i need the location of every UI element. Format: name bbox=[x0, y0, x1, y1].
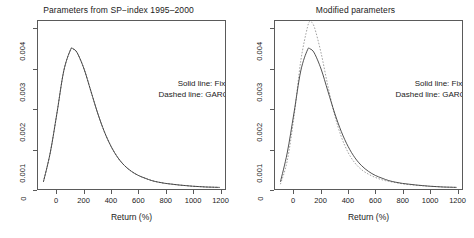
x-tick-mark bbox=[56, 190, 57, 194]
y-tick-label: 0.003 bbox=[19, 82, 28, 101]
x-tick-label: 1000 bbox=[185, 196, 202, 205]
panel-modified: Modified parameters 00.0010.0020.0030.00… bbox=[237, 0, 474, 238]
x-tick-mark bbox=[293, 190, 294, 194]
x-axis-title-left: Return (%) bbox=[37, 212, 226, 222]
y-tick-label: 0.002 bbox=[256, 123, 265, 142]
curve-solid-fixed-right bbox=[280, 48, 456, 188]
x-tick-label: 1200 bbox=[449, 196, 466, 205]
x-tick-mark bbox=[111, 190, 112, 194]
x-tick-mark bbox=[430, 190, 431, 194]
y-axis-left: 00.0010.0020.0030.004 bbox=[0, 20, 37, 190]
figure-container: Parameters from SP−index 1995–2000 00.00… bbox=[0, 0, 474, 238]
x-tick-label: 400 bbox=[105, 196, 118, 205]
x-tick-mark bbox=[458, 190, 459, 194]
panel-title-left: Parameters from SP−index 1995–2000 bbox=[0, 5, 237, 15]
y-tick-label: 0 bbox=[19, 197, 28, 201]
x-tick-mark bbox=[138, 190, 139, 194]
x-tick-label: 400 bbox=[342, 196, 355, 205]
curves-right bbox=[275, 21, 462, 189]
curves-left bbox=[38, 21, 225, 189]
y-tick-label: 0.003 bbox=[256, 82, 265, 101]
panel-title-right: Modified parameters bbox=[237, 5, 474, 15]
x-tick-label: 1000 bbox=[422, 196, 439, 205]
x-tick-mark bbox=[375, 190, 376, 194]
x-tick-label: 0 bbox=[54, 196, 58, 205]
plot-area-left: Solid line: Fixed volatilities Dashed li… bbox=[37, 20, 226, 190]
y-tick-label: 0.001 bbox=[19, 163, 28, 182]
curve-dashed-garch-right bbox=[280, 22, 456, 188]
y-tick-label: 0.004 bbox=[19, 42, 28, 61]
x-tick-mark bbox=[193, 190, 194, 194]
x-tick-label: 800 bbox=[159, 196, 172, 205]
x-tick-mark bbox=[321, 190, 322, 194]
x-tick-label: 200 bbox=[314, 196, 327, 205]
x-axis-right: Return (%) 020040060080010001200 bbox=[274, 190, 463, 238]
plot-area-right: Solid line: Fixed volatilities Dashed li… bbox=[274, 20, 463, 190]
x-tick-mark bbox=[221, 190, 222, 194]
x-tick-label: 0 bbox=[291, 196, 295, 205]
x-tick-label: 1200 bbox=[212, 196, 229, 205]
x-tick-mark bbox=[403, 190, 404, 194]
x-tick-mark bbox=[84, 190, 85, 194]
x-tick-mark bbox=[348, 190, 349, 194]
x-tick-label: 600 bbox=[369, 196, 382, 205]
y-tick-label: 0.001 bbox=[256, 163, 265, 182]
x-tick-label: 200 bbox=[77, 196, 90, 205]
x-tick-label: 800 bbox=[396, 196, 409, 205]
x-axis-title-right: Return (%) bbox=[274, 212, 463, 222]
y-tick-label: 0 bbox=[256, 197, 265, 201]
x-axis-left: Return (%) 020040060080010001200 bbox=[37, 190, 226, 238]
curve-dashed-garch-left bbox=[43, 48, 219, 188]
y-tick-label: 0.002 bbox=[19, 123, 28, 142]
curve-solid-fixed-left bbox=[43, 48, 219, 188]
y-tick-label: 0.004 bbox=[256, 42, 265, 61]
x-tick-label: 600 bbox=[132, 196, 145, 205]
x-tick-mark bbox=[166, 190, 167, 194]
y-axis-right: 00.0010.0020.0030.004 bbox=[237, 20, 274, 190]
panel-sp-index: Parameters from SP−index 1995–2000 00.00… bbox=[0, 0, 237, 238]
